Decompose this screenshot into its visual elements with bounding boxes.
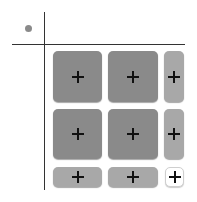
plus-icon <box>127 171 139 183</box>
vertical-axis-line <box>44 12 45 190</box>
plus-icon <box>127 71 139 83</box>
plus-icon <box>72 128 84 140</box>
plus-icon <box>72 71 84 83</box>
cell-r3-c1[interactable] <box>53 167 102 187</box>
corner-dot <box>25 25 32 32</box>
cell-r3-c2[interactable] <box>108 167 158 187</box>
cell-r2-c1[interactable] <box>53 109 102 159</box>
plus-icon <box>168 71 180 83</box>
cell-r1-c3[interactable] <box>164 51 184 102</box>
plus-icon <box>168 128 180 140</box>
plus-icon <box>72 171 84 183</box>
cell-r2-c3[interactable] <box>164 109 184 159</box>
cell-r1-c2[interactable] <box>108 51 158 102</box>
plus-icon <box>169 171 181 183</box>
cell-r2-c2[interactable] <box>108 109 158 159</box>
cell-r3-c3[interactable] <box>165 167 184 187</box>
horizontal-axis-line <box>12 44 185 45</box>
cell-r1-c1[interactable] <box>53 51 102 102</box>
plus-icon <box>127 128 139 140</box>
